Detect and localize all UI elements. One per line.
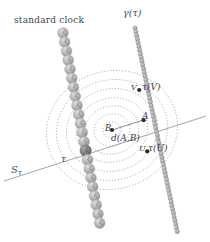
clock-face xyxy=(70,91,81,102)
point-B-label: B xyxy=(105,124,111,133)
clock-face xyxy=(77,127,88,138)
gamma-curve xyxy=(133,26,180,234)
clock-face xyxy=(63,55,74,66)
standard-clock-worldline xyxy=(58,28,106,229)
clock-face xyxy=(66,73,77,84)
point-A-label: A xyxy=(142,112,149,121)
point-V xyxy=(137,88,141,92)
hypersurface-subscript: τ xyxy=(18,168,22,177)
clock-tick-tau-label: τ xyxy=(61,155,66,164)
clock-face xyxy=(94,218,105,229)
tau-of-U-label: τ(U) xyxy=(148,144,168,153)
point-V-label: V xyxy=(131,84,137,92)
gamma-curve-label: γ(τ) xyxy=(123,8,141,18)
hypersurface-letter: S xyxy=(11,164,18,175)
distance-AB-label: d(A,B) xyxy=(111,134,140,143)
tau-of-V-label: τ(V) xyxy=(142,83,161,92)
clock-face xyxy=(84,163,95,174)
clock-face xyxy=(73,109,84,120)
point-U-label: U xyxy=(139,145,146,153)
hypersurface-label: Sτ xyxy=(11,165,22,176)
clock-face xyxy=(91,200,102,211)
clock-face xyxy=(87,181,98,192)
clock-face xyxy=(59,37,70,48)
spacetime-diagram: standard clock γ(τ) V τ(V) A B d(A,B) U … xyxy=(0,0,210,242)
standard-clock-label: standard clock xyxy=(14,16,84,25)
diagram-canvas xyxy=(0,0,210,242)
